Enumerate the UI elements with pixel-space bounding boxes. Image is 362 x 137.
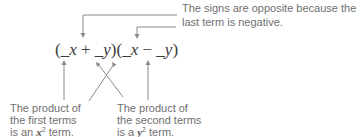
text: term. xyxy=(146,126,174,137)
annotation-top-line2: last term is negative. xyxy=(182,16,356,28)
variable-y: y xyxy=(103,40,111,59)
annotation-second-terms: The product of the second terms is a y2 … xyxy=(117,102,201,137)
blank: _ xyxy=(61,40,70,59)
annotation-right-line3: is a y2 term. xyxy=(117,126,201,137)
paren-close: ) xyxy=(172,40,178,59)
arrowhead-up-left xyxy=(62,60,67,65)
text: is an xyxy=(10,126,36,137)
text: term. xyxy=(46,126,74,137)
arrowhead-down-minus xyxy=(135,34,140,39)
leader-line-top xyxy=(83,15,177,35)
arrowhead-down-plus xyxy=(81,33,86,38)
minus-sign: − xyxy=(138,40,156,59)
blank: _ xyxy=(156,40,165,59)
text: is a xyxy=(117,126,137,137)
annotation-left-line1: The product of xyxy=(10,102,81,114)
annotation-opposite-signs: The signs are opposite because the last … xyxy=(182,2,356,28)
annotation-left-line2: the first terms xyxy=(10,114,81,126)
equation: (_x + _y)(_x − _y) xyxy=(55,40,178,60)
variable-x: x xyxy=(36,126,42,137)
annotation-right-line2: the second terms xyxy=(117,114,201,126)
annotation-right-line1: The product of xyxy=(117,102,201,114)
annotation-first-terms: The product of the first terms is an x2 … xyxy=(10,102,81,137)
exponent: 2 xyxy=(42,126,46,133)
variable-x: x xyxy=(69,40,77,59)
arrowhead-up-right xyxy=(146,60,151,65)
blank: _ xyxy=(122,40,131,59)
leader-line-minus xyxy=(137,27,176,36)
cross-line-a xyxy=(89,64,114,101)
annotation-top-line1: The signs are opposite because the xyxy=(182,2,356,14)
plus-sign: + xyxy=(77,40,95,59)
exponent: 2 xyxy=(142,126,146,133)
annotation-left-line3: is an x2 term. xyxy=(10,126,81,137)
